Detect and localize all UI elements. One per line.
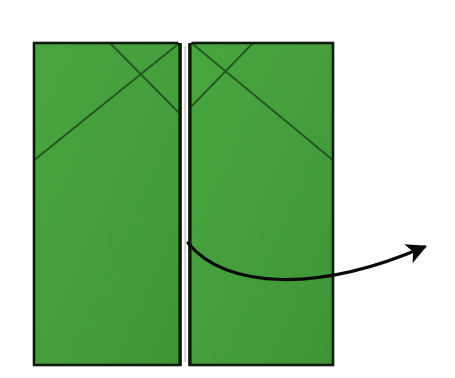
center-seam-shadow — [184, 46, 186, 362]
center-seam-right-edge — [188, 42, 191, 366]
center-seam — [178, 37, 191, 366]
right-panel — [188, 41, 334, 365]
center-seam-top-notch — [178, 37, 191, 43]
left-panel — [33, 41, 182, 365]
diagram-canvas: Origami fold step diagram Two green pape… — [0, 0, 455, 378]
center-seam-left-edge — [179, 42, 182, 366]
origami-illustration — [0, 0, 455, 378]
right-panel-face — [190, 43, 333, 365]
